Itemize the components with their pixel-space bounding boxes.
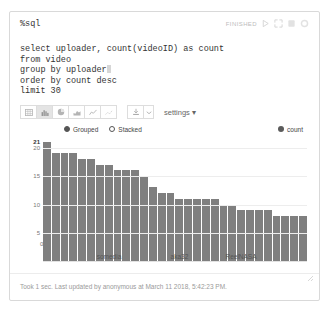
chart-legend-row: Grouped Stacked count bbox=[20, 126, 309, 138]
download-button[interactable] bbox=[127, 105, 144, 119]
chart-container: Grouped Stacked count 510152021 0 somedi… bbox=[20, 126, 309, 276]
resize-handle-icon[interactable] bbox=[306, 268, 314, 276]
chart-type-buttons bbox=[20, 105, 116, 119]
code-line-1: select uploader, count(videoID) as count bbox=[20, 44, 224, 54]
radio-grouped-icon bbox=[64, 126, 70, 132]
run-icon[interactable] bbox=[261, 19, 270, 28]
download-dropdown-button[interactable] bbox=[143, 105, 154, 119]
code-line-3: group by uploader bbox=[20, 65, 107, 75]
code-line-5: limit 30 bbox=[20, 86, 61, 96]
settings-dropdown[interactable]: settings ▾ bbox=[164, 108, 196, 117]
visualization-toolbar: settings ▾ bbox=[20, 105, 309, 120]
plot-area: 510152021 0 somediaaka32ReelNASA bbox=[20, 139, 309, 262]
bar[interactable] bbox=[87, 159, 95, 262]
mode-stacked-label: Stacked bbox=[118, 126, 142, 133]
line-chart-button[interactable] bbox=[84, 105, 101, 119]
bar[interactable] bbox=[96, 165, 104, 262]
series-color-swatch bbox=[278, 126, 284, 132]
status-badge: FINISHED bbox=[226, 21, 257, 27]
pie-chart-button[interactable] bbox=[52, 105, 69, 119]
bar[interactable] bbox=[131, 170, 139, 261]
grid-line bbox=[43, 176, 307, 177]
series-legend[interactable]: count bbox=[278, 126, 303, 133]
sql-editor[interactable]: select uploader, count(videoID) as count… bbox=[20, 44, 309, 97]
bar[interactable] bbox=[52, 153, 60, 261]
grid-and-bars bbox=[43, 139, 307, 262]
footer-status-text: Took 1 sec. Last updated by anonymous at… bbox=[20, 283, 227, 290]
scatter-chart-button[interactable] bbox=[100, 105, 117, 119]
bar[interactable] bbox=[114, 170, 122, 261]
y-axis-peak-label: 21 bbox=[33, 139, 40, 145]
text-caret bbox=[107, 65, 111, 73]
series-legend-label: count bbox=[287, 126, 303, 133]
bar[interactable] bbox=[78, 159, 86, 262]
table-view-button[interactable] bbox=[20, 105, 37, 119]
mode-option-stacked[interactable]: Stacked bbox=[109, 126, 142, 133]
code-line-2: from video bbox=[20, 55, 71, 65]
y-axis-tick: 5 bbox=[37, 230, 40, 236]
mode-option-grouped[interactable]: Grouped bbox=[64, 126, 98, 133]
y-axis-tick: 20 bbox=[33, 145, 40, 151]
bar[interactable] bbox=[122, 170, 130, 261]
bar-series bbox=[43, 139, 307, 262]
bar-chart-button[interactable] bbox=[36, 105, 53, 119]
settings-label: settings bbox=[164, 108, 190, 117]
grid-line bbox=[43, 148, 307, 149]
x-axis-tick-label: ReelNASA bbox=[225, 253, 256, 260]
grid-line bbox=[43, 233, 307, 234]
notebook-paragraph: %sql FINISHED select uploader, count(vid… bbox=[9, 11, 320, 301]
x-axis-tick-label: somedia bbox=[97, 253, 122, 260]
bar[interactable] bbox=[69, 153, 77, 261]
bar[interactable] bbox=[105, 165, 113, 262]
x-origin-label: 0 bbox=[40, 241, 43, 247]
expand-icon[interactable] bbox=[274, 19, 283, 28]
code-header: %sql FINISHED bbox=[20, 18, 309, 38]
gear-icon[interactable] bbox=[300, 19, 309, 28]
grid-line bbox=[43, 205, 307, 206]
y-axis-tick: 10 bbox=[33, 202, 40, 208]
code-line-4: order by count desc bbox=[20, 76, 117, 86]
chart-mode-toggle: Grouped Stacked bbox=[64, 126, 142, 133]
paragraph-footer: Took 1 sec. Last updated by anonymous at… bbox=[10, 273, 319, 300]
x-axis-tick-label: aka32 bbox=[171, 253, 189, 260]
paragraph-status-bar: FINISHED bbox=[226, 19, 309, 28]
book-icon[interactable] bbox=[287, 19, 296, 28]
bar[interactable] bbox=[61, 153, 69, 261]
x-axis-labels: 0 somediaaka32ReelNASA bbox=[43, 250, 307, 263]
bar[interactable] bbox=[43, 142, 51, 262]
y-axis: 510152021 bbox=[20, 139, 42, 262]
mode-grouped-label: Grouped bbox=[73, 126, 98, 133]
radio-stacked-icon bbox=[109, 126, 115, 132]
area-chart-button[interactable] bbox=[68, 105, 85, 119]
y-axis-tick: 15 bbox=[33, 173, 40, 179]
